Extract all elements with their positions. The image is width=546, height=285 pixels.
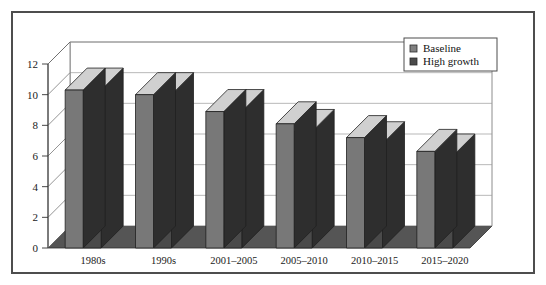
x-tick-label: 2010–2015 [351, 255, 398, 266]
y-tick-label: 8 [33, 119, 39, 131]
bar-1990s-baseline [136, 73, 176, 248]
y-tick-label: 6 [33, 150, 39, 162]
y-tick-label: 2 [33, 211, 39, 223]
y-tick-label: 10 [27, 89, 39, 101]
legend-label-high-growth: High growth [423, 55, 479, 67]
bar-20052010-baseline [276, 102, 316, 248]
bar-20152020-baseline [417, 129, 457, 248]
x-tick-label: 1990s [151, 255, 176, 266]
bar-20012005-baseline [206, 90, 246, 248]
legend-swatch-baseline [410, 45, 417, 52]
bar-20102015-baseline [347, 116, 387, 248]
x-tick-label: 1980s [81, 255, 106, 266]
x-tick-label: 2015–2020 [421, 255, 468, 266]
y-tick-label: 4 [33, 181, 39, 193]
x-tick-label: 2005–2010 [281, 255, 328, 266]
chart-figure: 12 10 8 6 4 2 0 1980s1990s2001–20052005–… [0, 0, 546, 285]
y-tick-label: 12 [27, 58, 38, 70]
legend-swatch-high-growth [410, 58, 417, 65]
x-tick-label: 2001–2005 [210, 255, 257, 266]
bar-1980s-baseline [65, 68, 105, 248]
y-axis-tick-labels: 12 10 8 6 4 2 0 [27, 58, 39, 254]
x-axis-category-labels: 1980s1990s2001–20052005–20102010–2015201… [81, 255, 469, 266]
legend-label-baseline: Baseline [423, 42, 461, 54]
y-tick-label: 0 [33, 242, 39, 254]
chart-legend: Baseline High growth [404, 38, 497, 71]
bar-chart-3d: 12 10 8 6 4 2 0 1980s1990s2001–20052005–… [0, 0, 546, 285]
